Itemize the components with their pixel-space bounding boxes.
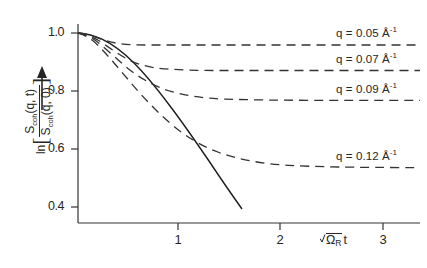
legend-entry-q007-text: q = 0.07 Å — [336, 53, 390, 65]
x-tick-label-1: 1 — [169, 232, 187, 247]
legend-entry-q009-exponent: -1 — [390, 81, 397, 90]
denominator-symbol: S — [40, 127, 54, 135]
y-axis-ln-label: ln — [34, 145, 48, 154]
sqrt-radical-icon: ΩR — [320, 233, 342, 247]
legend-entry-q005: q = 0.05 Å-1 — [336, 25, 397, 39]
figure-panel: 1.0 0.8 0.6 0.4 1 2 3 ΩRt ln[Scoh(q, t)S… — [0, 0, 427, 268]
legend-entry-q009-text: q = 0.09 Å — [336, 83, 390, 95]
legend-entry-q007: q = 0.07 Å-1 — [336, 51, 397, 65]
numerator-symbol: S — [23, 126, 37, 134]
legend-entry-q005-exponent: -1 — [390, 25, 397, 34]
x-axis-variable: t — [344, 233, 347, 247]
y-axis-denominator: Scoh(q, 0) — [40, 85, 56, 137]
x-axis-ticks — [178, 223, 383, 230]
y-tick-label-4: 0.4 — [30, 199, 64, 213]
numerator-argument: (q, t) — [23, 89, 37, 114]
numerator-subscript: coh — [30, 114, 39, 126]
denominator-argument: (q, 0) — [40, 87, 54, 115]
legend-entry-q009: q = 0.09 Å-1 — [336, 81, 397, 95]
legend-entry-q012: q = 0.12 Å-1 — [336, 148, 397, 162]
x-axis-title: ΩRt — [320, 233, 347, 247]
x-axis-radicand: Ω — [326, 233, 335, 247]
radical-tick-icon — [320, 234, 326, 242]
legend-entry-q007-exponent: -1 — [390, 51, 397, 60]
plot-canvas — [0, 0, 427, 268]
y-axis-fraction: Scoh(q, t)Scoh(q, 0) — [24, 85, 56, 137]
y-axis-title: ln[Scoh(q, t)Scoh(q, 0)] — [25, 31, 57, 201]
x-tick-label-2: 2 — [271, 232, 289, 247]
y-axis-numerator: Scoh(q, t) — [24, 85, 39, 137]
y-axis-bracket-open: [ — [27, 137, 52, 144]
x-tick-label-3: 3 — [374, 232, 392, 247]
denominator-subscript: coh — [47, 115, 56, 127]
y-axis-ticks — [71, 33, 78, 207]
y-axis-bracket-close: ] — [27, 78, 52, 85]
legend-entry-q005-text: q = 0.05 Å — [336, 27, 390, 39]
legend-entry-q012-text: q = 0.12 Å — [336, 150, 390, 162]
x-axis-radicand-sub: R — [335, 238, 341, 248]
legend-entry-q012-exponent: -1 — [390, 148, 397, 157]
series-solid-gaussian — [78, 33, 242, 209]
